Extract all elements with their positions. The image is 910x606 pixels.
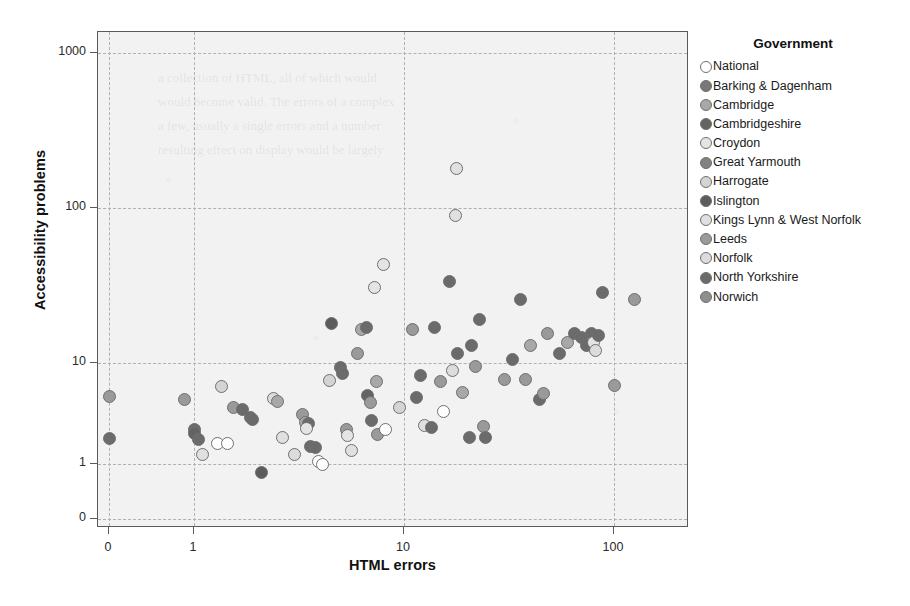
data-point [215, 380, 228, 393]
data-point [103, 432, 116, 445]
legend-swatch-icon [700, 195, 712, 207]
legend: Government NationalBarking & DagenhamCam… [700, 31, 905, 306]
y-tick-label: 10 [72, 354, 86, 368]
data-point [434, 375, 447, 388]
gridline-horizontal [98, 464, 687, 465]
data-point [456, 386, 469, 399]
legend-item-label: Barking & Dagenham [713, 80, 832, 93]
y-tick-mark [90, 52, 97, 53]
data-point [592, 329, 605, 342]
data-point [360, 321, 373, 334]
legend-title: Government [700, 36, 886, 51]
x-tick-label: 0 [88, 540, 128, 554]
data-point [589, 344, 602, 357]
gridline-horizontal [98, 208, 687, 209]
data-point [377, 258, 390, 271]
data-point [469, 360, 482, 373]
data-point [323, 374, 336, 387]
legend-swatch-icon [700, 176, 712, 188]
legend-item-norwich[interactable]: Norwich [700, 287, 905, 306]
y-tick-label: 1000 [58, 44, 86, 58]
data-point [365, 414, 378, 427]
scatter-chart: a collection of HTML, all of which would… [0, 0, 910, 606]
gridline-horizontal [98, 363, 687, 364]
legend-item-croydon[interactable]: Croydon [700, 134, 905, 153]
legend-item-label: Great Yarmouth [713, 156, 801, 169]
y-tick-mark [90, 207, 97, 208]
x-tick-mark [193, 527, 194, 534]
legend-item-label: Cambridge [713, 99, 774, 112]
data-point [541, 327, 554, 340]
legend-entries: NationalBarking & DagenhamCambridgeCambr… [700, 57, 905, 306]
data-point [450, 162, 463, 175]
data-point [345, 444, 358, 457]
legend-swatch-icon [700, 272, 712, 284]
x-tick-label: 10 [383, 540, 423, 554]
data-point [246, 413, 259, 426]
legend-swatch-icon [700, 252, 712, 264]
legend-item-kings-lynn-west-norfolk[interactable]: Kings Lynn & West Norfolk [700, 211, 905, 230]
data-point [410, 391, 423, 404]
data-point [514, 293, 527, 306]
x-axis-label: HTML errors [97, 557, 688, 573]
data-point [300, 422, 313, 435]
data-point [506, 353, 519, 366]
data-point [379, 423, 392, 436]
legend-swatch-icon [700, 214, 712, 226]
data-point [414, 369, 427, 382]
data-point [463, 431, 476, 444]
data-point [537, 387, 550, 400]
data-point [451, 347, 464, 360]
data-point [437, 405, 450, 418]
data-point [316, 458, 329, 471]
data-point [553, 347, 566, 360]
legend-item-label: Islington [713, 195, 760, 208]
x-tick-mark [613, 527, 614, 534]
data-point [336, 367, 349, 380]
legend-item-north-yorkshire[interactable]: North Yorkshire [700, 268, 905, 287]
data-point [309, 441, 322, 454]
legend-item-harrogate[interactable]: Harrogate [700, 172, 905, 191]
x-tick-label: 100 [593, 540, 633, 554]
legend-swatch-icon [700, 157, 712, 169]
legend-item-great-yarmouth[interactable]: Great Yarmouth [700, 153, 905, 172]
legend-item-cambridgeshire[interactable]: Cambridgeshire [700, 115, 905, 134]
legend-item-label: Cambridgeshire [713, 118, 801, 131]
legend-item-norfolk[interactable]: Norfolk [700, 249, 905, 268]
paper-texture [98, 32, 687, 526]
data-point [192, 433, 205, 446]
legend-item-barking-dagenham[interactable]: Barking & Dagenham [700, 76, 905, 95]
legend-swatch-icon [700, 80, 712, 92]
legend-item-leeds[interactable]: Leeds [700, 230, 905, 249]
gridline-horizontal [98, 53, 687, 54]
page-bleed-artifact: resulting effect on display would be lar… [158, 142, 384, 158]
data-point [443, 275, 456, 288]
data-point [479, 431, 492, 444]
data-point [465, 339, 478, 352]
legend-item-cambridge[interactable]: Cambridge [700, 95, 905, 114]
legend-item-national[interactable]: National [700, 57, 905, 76]
y-tick-label: 0 [79, 510, 86, 524]
legend-item-label: Norfolk [713, 252, 753, 265]
data-point [276, 431, 289, 444]
legend-item-label: North Yorkshire [713, 271, 798, 284]
y-axis-label: Accessibility problems [32, 130, 48, 330]
data-point [288, 448, 301, 461]
legend-swatch-icon [700, 291, 712, 303]
x-tick-mark [108, 527, 109, 534]
y-tick-label: 100 [65, 199, 86, 213]
legend-swatch-icon [700, 99, 712, 111]
data-point [406, 323, 419, 336]
legend-item-label: Harrogate [713, 175, 769, 188]
legend-item-islington[interactable]: Islington [700, 191, 905, 210]
legend-swatch-icon [700, 137, 712, 149]
data-point [178, 393, 191, 406]
data-point [428, 321, 441, 334]
data-point [473, 313, 486, 326]
data-point [628, 293, 641, 306]
legend-swatch-icon [700, 233, 712, 245]
data-point [498, 373, 511, 386]
y-tick-label: 1 [79, 455, 86, 469]
data-point [524, 339, 537, 352]
data-point [608, 379, 621, 392]
